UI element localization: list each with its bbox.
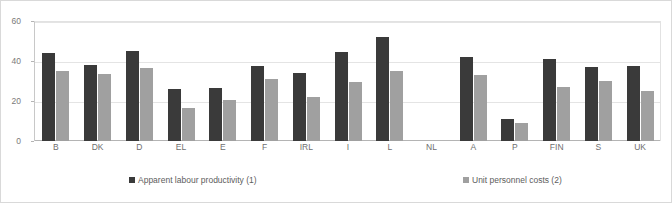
legend-swatch-icon-series0 xyxy=(129,177,135,183)
bar[interactable] xyxy=(599,81,612,141)
bar-group xyxy=(411,21,453,141)
bar[interactable] xyxy=(474,75,487,141)
y-tick-label-20: 20 xyxy=(0,97,21,106)
x-axis-tick-label: P xyxy=(494,143,536,152)
x-axis-tick-label: DK xyxy=(77,143,119,152)
bar[interactable] xyxy=(56,71,69,141)
legend-entry-unit-personnel-costs[interactable]: Unit personnel costs (2) xyxy=(463,176,562,185)
bar[interactable] xyxy=(98,74,111,141)
x-axis-tick-label: EL xyxy=(160,143,202,152)
bar-group xyxy=(494,21,536,141)
bar[interactable] xyxy=(627,66,640,141)
bar[interactable] xyxy=(84,65,97,141)
bar[interactable] xyxy=(209,88,222,141)
bar[interactable] xyxy=(585,67,598,141)
x-axis-tick-label: D xyxy=(118,143,160,152)
y-tick-mark-60 xyxy=(31,21,34,22)
x-axis-labels: BDKDELEFIRLILNLAPFINSUK xyxy=(35,143,661,152)
legend-entry-apparent-labour-productivity[interactable]: Apparent labour productivity (1) xyxy=(129,176,257,185)
bar[interactable] xyxy=(168,89,181,141)
bar[interactable] xyxy=(126,51,139,141)
bar-groups xyxy=(35,21,661,141)
bar[interactable] xyxy=(182,108,195,141)
bar[interactable] xyxy=(251,66,264,141)
bar-group xyxy=(578,21,620,141)
x-axis-tick-label: A xyxy=(452,143,494,152)
bar-group xyxy=(285,21,327,141)
bar-group xyxy=(35,21,77,141)
bar[interactable] xyxy=(390,71,403,141)
bar-group xyxy=(619,21,661,141)
x-axis-tick-label: NL xyxy=(411,143,453,152)
bar-group xyxy=(452,21,494,141)
bar[interactable] xyxy=(557,87,570,141)
bar-group xyxy=(536,21,578,141)
chart-figure: 60 40 20 0 BDKDELEFIRLILNLAPFINSUK Appar… xyxy=(0,0,672,203)
y-tick-mark-0 xyxy=(31,141,34,142)
bar[interactable] xyxy=(349,82,362,141)
bar-group xyxy=(118,21,160,141)
bar-group xyxy=(327,21,369,141)
x-axis-tick-label: E xyxy=(202,143,244,152)
x-axis-tick-label: UK xyxy=(619,143,661,152)
y-tick-mark-40 xyxy=(31,61,34,62)
x-axis-tick-label: L xyxy=(369,143,411,152)
bar[interactable] xyxy=(641,91,654,141)
x-axis-tick-label: I xyxy=(327,143,369,152)
bar[interactable] xyxy=(376,37,389,141)
x-axis-tick-label: F xyxy=(244,143,286,152)
legend-label-series0: Apparent labour productivity (1) xyxy=(138,176,257,185)
bar[interactable] xyxy=(140,68,153,141)
legend: Apparent labour productivity (1) Unit pe… xyxy=(1,176,672,190)
y-tick-label-40: 40 xyxy=(0,57,21,66)
bar[interactable] xyxy=(293,73,306,141)
bar[interactable] xyxy=(335,52,348,141)
bar[interactable] xyxy=(515,123,528,141)
bar-group xyxy=(202,21,244,141)
y-tick-label-60: 60 xyxy=(0,17,21,26)
bar-group xyxy=(244,21,286,141)
legend-label-series1: Unit personnel costs (2) xyxy=(472,176,562,185)
bar[interactable] xyxy=(501,119,514,141)
legend-swatch-icon-series1 xyxy=(463,177,469,183)
bar[interactable] xyxy=(460,57,473,141)
x-axis-tick-label: IRL xyxy=(285,143,327,152)
x-axis-tick-label: S xyxy=(578,143,620,152)
y-tick-label-0: 0 xyxy=(0,137,21,146)
bar[interactable] xyxy=(223,100,236,141)
bar[interactable] xyxy=(543,59,556,141)
bar-group xyxy=(369,21,411,141)
bar-group xyxy=(160,21,202,141)
x-axis-tick-label: B xyxy=(35,143,77,152)
x-axis-tick-label: FIN xyxy=(536,143,578,152)
bar-group xyxy=(77,21,119,141)
bar[interactable] xyxy=(42,53,55,141)
bar[interactable] xyxy=(307,97,320,141)
y-tick-mark-20 xyxy=(31,101,34,102)
bar[interactable] xyxy=(265,79,278,141)
